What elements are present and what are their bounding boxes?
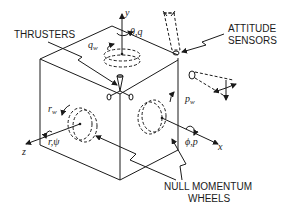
null-momentum-leader-left [96,136,176,180]
pitch-wheel-rate-label: qw [88,39,98,52]
roll-rotation-label: ϕ,p [185,136,198,147]
x-axis-label: x [217,141,223,152]
pitch-rotation-label: θ,q [130,26,142,37]
attitude-sensor-top [163,11,180,55]
yaw-wheel-rate-label: rw [48,103,57,116]
null-momentum-label-line2: WHEELS [188,193,231,204]
yaw-rotation-label: r,ψ [48,136,60,147]
thrusters-leader [48,42,117,85]
y-axis-label: y [124,7,130,18]
roll-wheel-rate-label: pw [184,93,195,106]
pitch-wheel [104,14,140,67]
thrusters-label: THRUSTERS [14,29,75,40]
null-momentum-label-line1: NULL MOMENTUM [164,181,252,192]
attitude-sensors-label-line2: SENSORS [228,35,277,46]
attitude-sensors-label-line1: ATTITUDE [228,23,276,34]
cube-body [40,26,178,180]
z-axis-label: z [21,146,26,157]
spacecraft-diagram: y θ,q qw THRUSTERS ATTITUDE SENSORS [0,0,288,216]
null-momentum-leader-right [172,139,186,180]
yaw-wheel [26,105,97,144]
attitude-sensor-side [189,71,236,100]
attitude-sensors-leader [182,34,224,52]
